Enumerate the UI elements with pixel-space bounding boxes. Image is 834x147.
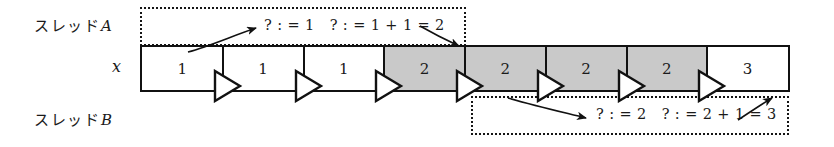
timeline-cell: 2 — [546, 47, 627, 90]
thread-b-label-latin: B — [100, 111, 112, 129]
timeline-cell-value: 2 — [501, 60, 511, 78]
thread-a-label: スレッドA — [34, 14, 112, 35]
thread-a-label-latin: A — [100, 17, 112, 35]
timeline-cell-value: 1 — [258, 60, 268, 78]
timeline-cell: 1 — [223, 47, 304, 90]
thread-a-annotation-text: ? : = 1 ? : = 1 + 1 = 2 — [264, 17, 445, 33]
timeline-cell: 2 — [465, 47, 546, 90]
timeline-cell-value: 3 — [743, 60, 753, 78]
timeline-cell: 2 — [627, 47, 708, 90]
thread-b-label-jp: スレッド — [34, 111, 100, 129]
timeline-cell-value: 2 — [662, 60, 672, 78]
timeline-cell: 3 — [707, 47, 788, 90]
timeline-cell-value: 2 — [581, 60, 591, 78]
variable-label-x: x — [112, 57, 121, 76]
thread-a-label-jp: スレッド — [34, 17, 100, 35]
timeline-cell-value: 1 — [339, 60, 349, 78]
diagram-canvas: スレッドA スレッドB x ? : = 1 ? : = 1 + 1 = 2 ? … — [0, 0, 834, 147]
timeline-cell: 2 — [384, 47, 465, 90]
timeline-cell-value: 2 — [420, 60, 430, 78]
thread-b-label: スレッドB — [34, 108, 112, 129]
timeline-cell-value: 1 — [178, 60, 188, 78]
thread-b-annotation-text: ? : = 2 ? : = 2 + 1 = 3 — [596, 106, 777, 122]
timeline-cell: 1 — [142, 47, 223, 90]
timeline-cell: 1 — [304, 47, 385, 90]
timeline-bar: 11122223 — [140, 45, 790, 92]
